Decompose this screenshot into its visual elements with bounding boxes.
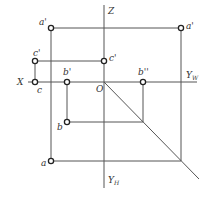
- label-a-prime-w: a': [186, 21, 194, 31]
- point-c-prime-v: [32, 58, 37, 63]
- point-a-prime-v: [48, 25, 53, 30]
- label-c-prime-w: c': [109, 53, 117, 63]
- label-c: c: [37, 85, 42, 95]
- point-b-prime: [64, 79, 69, 84]
- label-yw: YW: [186, 70, 199, 81]
- label-x: X: [16, 77, 24, 87]
- label-c-prime-v: c': [33, 48, 41, 58]
- point-b-double-prime: [140, 79, 145, 84]
- point-c-prime-w: [101, 58, 106, 63]
- label-b: b: [57, 122, 63, 132]
- label-yh: YH: [108, 175, 120, 186]
- point-b: [64, 119, 69, 124]
- point-a: [48, 158, 53, 163]
- label-origin: O: [96, 84, 104, 94]
- projection-diagram: Z X O YW YH a' a' c' c' c b' b'' b a: [0, 0, 214, 198]
- label-b-prime: b': [63, 67, 71, 77]
- diagonal-45: [104, 82, 199, 179]
- point-c: [32, 79, 37, 84]
- diagram-svg: Z X O YW YH a' a' c' c' c b' b'' b a: [0, 0, 214, 198]
- label-a: a: [41, 158, 46, 168]
- label-a-prime-v: a': [39, 17, 47, 27]
- label-b-double-prime: b'': [138, 67, 149, 77]
- label-z: Z: [107, 6, 115, 16]
- point-a-prime-w: [178, 25, 183, 30]
